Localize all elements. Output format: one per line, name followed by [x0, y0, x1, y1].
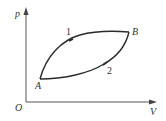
- path-2-curve: [40, 32, 129, 79]
- path-1-label: 1: [66, 26, 71, 37]
- pv-diagram: p V O A B 1 2: [0, 0, 166, 121]
- origin-label: O: [15, 102, 22, 113]
- path-2-label: 2: [107, 65, 112, 76]
- y-axis-arrow-icon: [24, 7, 29, 15]
- x-axis-label: V: [150, 106, 158, 117]
- y-axis-label: p: [14, 8, 20, 19]
- point-a-label: A: [34, 80, 42, 91]
- point-b-label: B: [132, 26, 138, 37]
- x-axis-arrow-icon: [149, 100, 157, 105]
